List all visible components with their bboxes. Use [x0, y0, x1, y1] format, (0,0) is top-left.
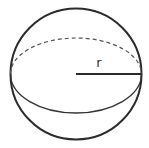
equator-front-arc [11, 74, 142, 113]
radius-label: r [96, 55, 102, 70]
sphere-diagram: r [0, 0, 149, 148]
equator-back-arc [11, 38, 142, 74]
